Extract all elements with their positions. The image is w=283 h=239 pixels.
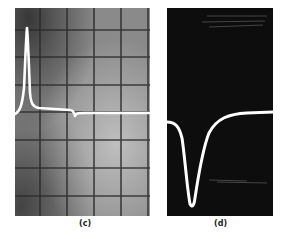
panel-label-c: (c) bbox=[79, 219, 91, 228]
signal-trace-d bbox=[167, 112, 273, 206]
signal-trace-c bbox=[15, 28, 150, 116]
oscilloscope-panel-c bbox=[15, 8, 150, 216]
trace-plot-c bbox=[15, 8, 150, 216]
oscilloscope-panel-d bbox=[167, 8, 273, 216]
trace-plot-d bbox=[167, 8, 273, 216]
scan-noise bbox=[202, 16, 267, 183]
panel-label-d: (d) bbox=[214, 219, 227, 228]
